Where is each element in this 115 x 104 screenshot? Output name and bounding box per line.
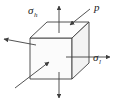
cube-front-face bbox=[30, 38, 72, 79]
stress-element-diagram: σh σl p bbox=[0, 0, 115, 104]
hoop-stress-subscript: h bbox=[34, 11, 38, 19]
longitudinal-stress-label: σl bbox=[93, 51, 101, 66]
stress-element-figure: σh σl p bbox=[0, 0, 115, 104]
pressure-label: p bbox=[93, 1, 100, 13]
cube-group bbox=[30, 22, 89, 79]
hoop-stress-label: σh bbox=[28, 4, 38, 19]
longitudinal-stress-subscript: l bbox=[99, 58, 101, 66]
